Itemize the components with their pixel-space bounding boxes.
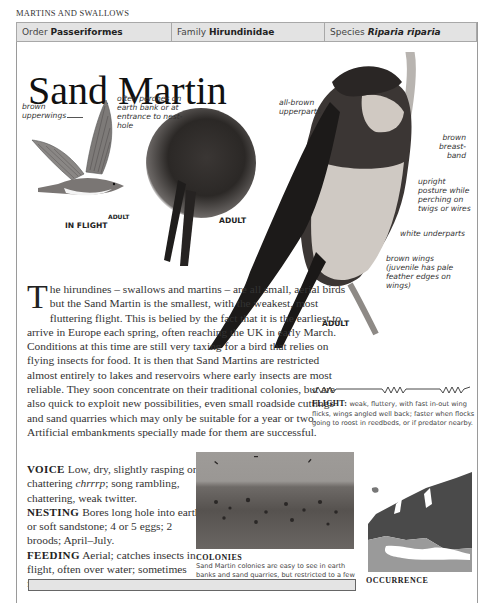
colonies-detail [196,452,354,549]
nesting-label: NESTING [27,506,79,518]
label-in-flight: IN FLIGHT [65,221,107,230]
taxonomy-bar: Order Passeriformes Family Hirundinidae … [16,22,477,42]
intro-text: he hirundines – swallows and martins – a… [27,282,347,439]
flight-label: FLIGHT: [312,399,347,408]
taxonomy-order: Order Passeriformes [17,23,172,41]
label-adult-flight: ADULT [108,213,129,220]
flight-pattern-graphic [312,385,472,395]
nesting-section: NESTING Bores long hole into earth or so… [27,505,203,548]
body-details: VOICE Low, dry, slightly rasping or chat… [27,462,203,591]
section-heading: MARTINS AND SWALLOWS [16,8,129,18]
taxonomy-species: Species Riparia riparia [325,23,476,41]
annotation-all-brown-upperparts: all-brown upperparts [279,98,323,116]
dropcap: T [27,283,48,311]
annotation-perches: often perches on earth bank or at entran… [117,94,197,130]
species-value: Riparia riparia [368,27,441,37]
annotation-brown-wings: brown wings (juvenile has pale feather e… [386,254,456,290]
voice-call: chrrrp [75,477,105,489]
feeding-label: FEEDING [27,549,80,561]
occurrence-map [366,468,472,572]
taxonomy-family: Family Hirundinidae [172,23,325,41]
intro-paragraph: he hirundines – swallows and martins – a… [27,283,345,438]
family-value: Hirundinidae [209,27,275,37]
species-label: Species [330,27,365,37]
order-value: Passeriformes [51,27,123,37]
voice-label: VOICE [27,463,65,475]
flight-description: FLIGHT: weak, fluttery, with fast in-out… [312,399,477,429]
bottom-panel [28,579,356,591]
colonies-title: COLONIES [196,553,242,562]
occurrence-title: OCCURRENCE [366,576,428,585]
colonies-photo [196,452,354,549]
family-label: Family [177,27,206,37]
annotation-upright-posture: upright posture while perching on twigs … [418,177,474,213]
body-intro: T he hirundines – swallows and martins –… [27,282,347,439]
annotation-brown-upperwings: brown upperwings [22,102,66,120]
annotation-brown-breast-band: brown breast-band [426,133,466,160]
order-label: Order [22,27,48,37]
voice-section: VOICE Low, dry, slightly rasping or chat… [27,462,203,505]
leader-line [67,117,83,118]
annotation-white-underparts: white underparts [400,229,476,238]
